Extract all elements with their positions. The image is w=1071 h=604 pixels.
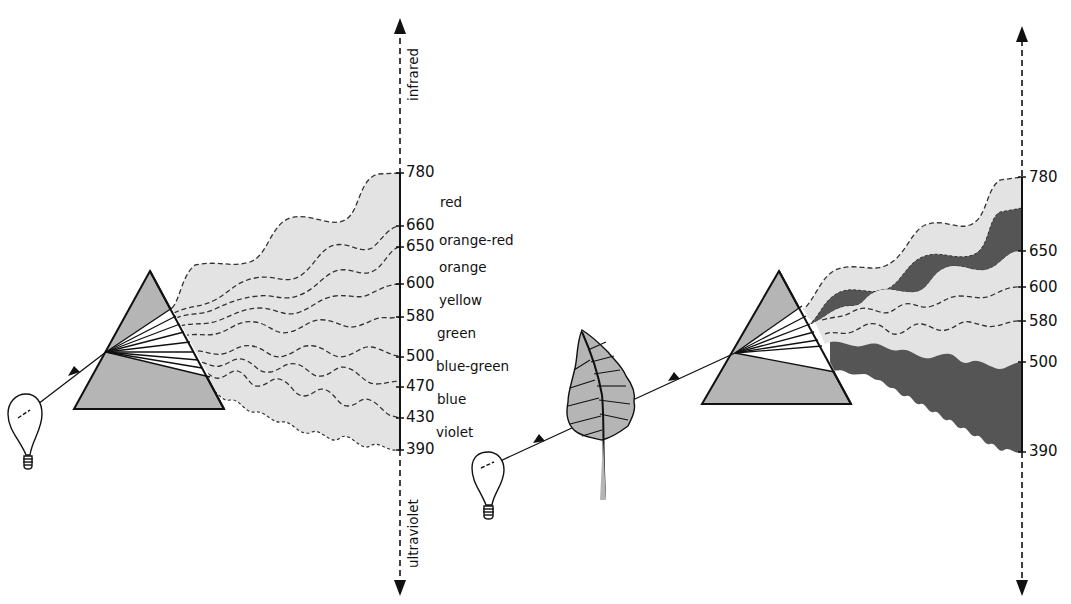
band-red: red — [440, 196, 462, 210]
right-panel — [472, 26, 1028, 596]
tick-430: 430 — [406, 410, 435, 425]
beam-arrow-icon — [68, 366, 80, 376]
infrared-label: infrared — [407, 48, 421, 101]
right-tick-500: 500 — [1029, 355, 1058, 370]
band-yellow: yellow — [439, 294, 482, 308]
light-bulb-icon-right — [472, 452, 504, 519]
band-violet: violet — [436, 426, 473, 440]
right-axis-arrow-up-icon — [1016, 26, 1028, 42]
right-tick-650: 650 — [1029, 244, 1058, 259]
tick-470: 470 — [406, 379, 435, 394]
right-axis-arrow-down-icon — [1016, 580, 1028, 596]
tick-580: 580 — [406, 309, 435, 324]
axis-arrow-down-icon — [394, 580, 406, 596]
band-green: green — [437, 327, 476, 341]
right-tick-580: 580 — [1029, 314, 1058, 329]
right-tick-390: 390 — [1029, 444, 1058, 459]
left-panel — [8, 18, 406, 596]
tick-780: 780 — [406, 165, 435, 180]
leaf-icon — [567, 330, 635, 500]
right-tick-600: 600 — [1029, 280, 1058, 295]
ultraviolet-label: ultraviolet — [407, 499, 421, 568]
right-tick-780: 780 — [1029, 170, 1058, 185]
band-orange-red: orange-red — [439, 234, 514, 248]
tick-390: 390 — [406, 442, 435, 457]
light-bulb-icon — [8, 394, 42, 469]
tick-650: 650 — [406, 239, 435, 254]
axis-arrow-up-icon — [394, 18, 406, 34]
tick-500: 500 — [406, 349, 435, 364]
diagram-canvas — [0, 0, 1071, 604]
band-blue: blue — [437, 393, 466, 407]
band-blue-green: blue-green — [436, 360, 509, 374]
tick-660: 660 — [406, 218, 435, 233]
tick-600: 600 — [406, 276, 435, 291]
band-orange: orange — [439, 261, 487, 275]
